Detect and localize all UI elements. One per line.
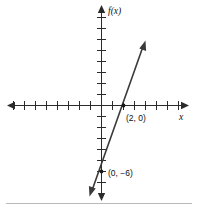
point-x-intercept-label: (2, 0)	[126, 113, 146, 123]
y-axis-bottom-arrow-icon	[98, 193, 105, 201]
function-line-upper-arrow-icon	[139, 41, 146, 52]
y-axis-top-arrow-icon	[98, 5, 105, 13]
y-axis-label: f(x)	[108, 6, 121, 17]
point-x-intercept-dot	[122, 104, 126, 108]
x-axis-label: x	[178, 112, 184, 122]
point-y-intercept-dot	[100, 170, 104, 174]
point-y-intercept-label: (0, −6)	[108, 168, 133, 178]
function-line-lower-arrow-icon	[89, 186, 96, 197]
x-axis-group	[7, 101, 189, 110]
footer-divider	[6, 203, 192, 204]
x-axis-right-arrow-icon	[181, 102, 189, 109]
linear-function-graph: f(x) x (2, 0) (0, −6)	[0, 0, 198, 213]
coordinate-plane: f(x) x (2, 0) (0, −6)	[0, 0, 198, 213]
